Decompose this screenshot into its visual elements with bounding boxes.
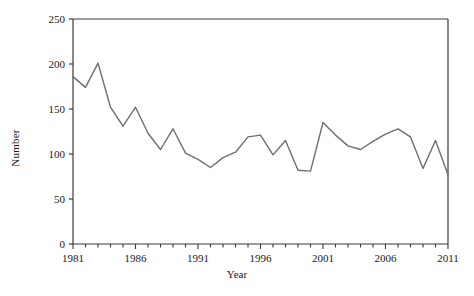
y-tick-label: 50: [54, 193, 66, 205]
x-tick-label: 2011: [437, 252, 459, 264]
data-series-line: [73, 63, 448, 175]
x-axis-ticks: 1981198619911996200120062011: [62, 244, 459, 264]
y-tick-label: 150: [49, 103, 66, 115]
y-axis-ticks: 050100150200250: [49, 13, 74, 250]
y-tick-label: 100: [49, 148, 66, 160]
x-tick-label: 1981: [62, 252, 84, 264]
x-axis-label: Year: [0, 268, 474, 280]
y-tick-label: 200: [49, 58, 66, 70]
x-tick-label: 1996: [250, 252, 273, 264]
line-chart: Number 050100150200250 19811986199119962…: [0, 0, 474, 296]
x-axis-label-text: Year: [227, 268, 247, 280]
y-tick-label: 0: [60, 238, 66, 250]
x-tick-label: 2006: [375, 252, 398, 264]
plot-area: 050100150200250 198119861991199620012006…: [0, 0, 474, 296]
x-tick-label: 1986: [125, 252, 148, 264]
x-tick-label: 2001: [312, 252, 334, 264]
x-tick-label: 1991: [187, 252, 209, 264]
y-tick-label: 250: [49, 13, 66, 25]
